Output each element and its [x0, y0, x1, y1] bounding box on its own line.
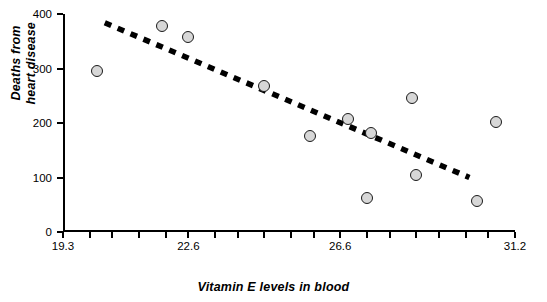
y-tick-label: 200 — [33, 117, 52, 129]
x-minor-tick — [487, 232, 489, 238]
x-tick: 26.6 — [339, 232, 341, 238]
plot-area: 0100200300400 19.322.626.631.2 — [63, 14, 515, 232]
y-tick-label: 0 — [46, 226, 52, 238]
x-minor-tick — [415, 232, 417, 238]
data-point — [361, 192, 373, 204]
x-minor-tick — [263, 232, 265, 238]
x-minor-tick — [389, 232, 391, 238]
x-minor-tick — [366, 232, 368, 238]
x-tick: 19.3 — [62, 232, 64, 238]
x-tick-label: 19.3 — [52, 240, 74, 252]
x-minor-tick — [465, 232, 467, 238]
y-axis-title-line-1: Deaths from — [9, 22, 24, 105]
x-tick-label: 22.6 — [177, 240, 199, 252]
x-minor-tick — [438, 232, 440, 238]
data-point — [304, 130, 316, 142]
y-tick-label: 300 — [33, 63, 52, 75]
x-minor-tick — [313, 232, 315, 238]
x-minor-tick — [290, 232, 292, 238]
y-tick-label: 100 — [33, 172, 52, 184]
data-point — [365, 127, 377, 139]
data-point — [156, 20, 168, 32]
data-point — [490, 116, 502, 128]
x-minor-tick — [89, 232, 91, 238]
x-minor-tick — [237, 232, 239, 238]
y-axis-title: Deaths from heart disease — [9, 22, 27, 105]
data-point — [410, 169, 422, 181]
trendline — [63, 14, 515, 232]
x-axis-title: Vitamin E levels in blood — [0, 280, 547, 294]
y-tick-label: 400 — [33, 8, 52, 20]
data-point — [342, 113, 354, 125]
x-tick: 31.2 — [514, 232, 516, 238]
data-point — [471, 195, 483, 207]
x-tick-label: 26.6 — [329, 240, 351, 252]
x-minor-tick — [111, 232, 113, 238]
scatter-chart: Deaths from heart disease 0100200300400 … — [0, 0, 547, 302]
x-minor-tick — [214, 232, 216, 238]
x-minor-tick — [138, 232, 140, 238]
x-minor-tick — [165, 232, 167, 238]
x-tick-label: 31.2 — [504, 240, 526, 252]
x-tick: 22.6 — [187, 232, 189, 238]
